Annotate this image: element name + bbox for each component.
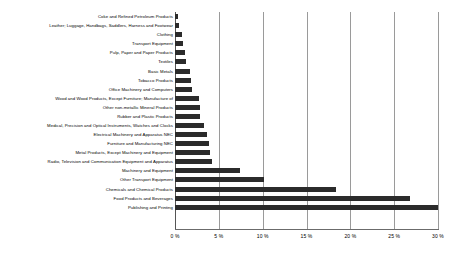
bar-category-label: Other Transport Equipment [0,177,173,182]
bar-category-label: Metal Products, Except Machinery and Equ… [0,150,173,155]
bar [175,69,190,74]
bar-track [175,194,438,203]
x-tick-label: 20 % [344,233,356,240]
bar-category-label: Coke and Refined Petroleum Products [0,14,173,19]
bar-track [175,30,438,39]
x-axis-tick-labels: 0 %5 %10 %15 %20 %25 %30 % [0,233,469,247]
bar [175,14,178,19]
bar [175,159,212,164]
bar [175,78,191,83]
bar-row: Textiles [0,57,469,66]
bar-row: Office Machinery and Computers [0,85,469,94]
bar-rows: Coke and Refined Petroleum ProductsLeath… [0,12,469,230]
bar-track [175,39,438,48]
x-tick-label: 25 % [388,233,400,240]
bar-category-label: Other non-metallic Mineral Products [0,105,173,110]
bar-track [175,112,438,121]
bar-category-label: Medical, Precision and Optical Instrumen… [0,123,173,128]
bar-row: Machinery and Equipment [0,166,469,175]
bar-category-label: Leather; Luggage, Handbags, Saddlers, Ha… [0,23,173,28]
bar-track [175,166,438,175]
bar-track [175,12,438,21]
bar-category-label: Office Machinery and Computers [0,87,173,92]
bar-track [175,21,438,30]
bar-track [175,76,438,85]
x-tick-label: 0 % [171,233,180,240]
bar [175,177,264,182]
bar-row: Chemicals and Chemical Products [0,184,469,193]
bar-row: Clothing [0,30,469,39]
bar-track [175,48,438,57]
bar-row: Medical, Precision and Optical Instrumen… [0,121,469,130]
bar [175,187,336,192]
bar-track [175,57,438,66]
bar-category-label: Radio, Television and Communication Equi… [0,159,173,164]
bar-track [175,121,438,130]
bar [175,32,182,37]
bar-row: Wood and Wood Products, Except Furniture… [0,94,469,103]
bar-row: Other Transport Equipment [0,175,469,184]
bar-category-label: Machinery and Equipment [0,168,173,173]
bar-category-label: Furniture and Manufacturing NEC [0,141,173,146]
bar-row: Leather; Luggage, Handbags, Saddlers, Ha… [0,21,469,30]
bar-track [175,139,438,148]
bar-track [175,184,438,193]
bar [175,132,207,137]
bar-track [175,66,438,75]
bar [175,205,438,210]
bar-row: Pulp, Paper and Paper Products [0,48,469,57]
x-tick-label: 15 % [301,233,313,240]
bar [175,114,200,119]
x-tick-label: 10 % [257,233,269,240]
x-tick-label: 5 % [214,233,223,240]
bar-category-label: Publishing and Printing [0,205,173,210]
x-tick-label: 30 % [432,233,444,240]
bar-chart: Coke and Refined Petroleum ProductsLeath… [0,0,469,257]
bar [175,105,200,110]
x-axis-line [175,229,439,230]
bar [175,168,240,173]
bar-category-label: Tobacco Products [0,78,173,83]
bar-row: Coke and Refined Petroleum Products [0,12,469,21]
bar-track [175,148,438,157]
bar-track [175,130,438,139]
bar [175,50,185,55]
bar-row: Metal Products, Except Machinery and Equ… [0,148,469,157]
bar [175,41,183,46]
bar-category-label: Transport Equipment [0,41,173,46]
bar-row: Electrical Machinery and Apparatus NEC [0,130,469,139]
bar [175,141,209,146]
bar-row: Radio, Television and Communication Equi… [0,157,469,166]
bar-row: Tobacco Products [0,76,469,85]
bar-row: Food Products and Beverages [0,194,469,203]
bar [175,96,199,101]
bar-row: Transport Equipment [0,39,469,48]
bar-track [175,157,438,166]
bar-row: Publishing and Printing [0,203,469,212]
bar-track [175,103,438,112]
bar-category-label: Wood and Wood Products, Except Furniture… [0,96,173,101]
bar-row: Basic Metals [0,66,469,75]
bar-track [175,85,438,94]
bar-track [175,203,438,212]
bar-category-label: Chemicals and Chemical Products [0,187,173,192]
bar-category-label: Food Products and Beverages [0,196,173,201]
bar-track [175,175,438,184]
bar [175,150,210,155]
bar [175,23,179,28]
bar [175,123,204,128]
bar-category-label: Rubber and Plastic Products [0,114,173,119]
bar [175,196,410,201]
bar-category-label: Electrical Machinery and Apparatus NEC [0,132,173,137]
bar [175,87,192,92]
bar-row: Furniture and Manufacturing NEC [0,139,469,148]
bar-row: Other non-metallic Mineral Products [0,103,469,112]
bar-category-label: Textiles [0,59,173,64]
bar-category-label: Pulp, Paper and Paper Products [0,50,173,55]
bar [175,59,186,64]
bar-track [175,94,438,103]
bar-row: Rubber and Plastic Products [0,112,469,121]
bar-category-label: Clothing [0,32,173,37]
bar-category-label: Basic Metals [0,69,173,74]
